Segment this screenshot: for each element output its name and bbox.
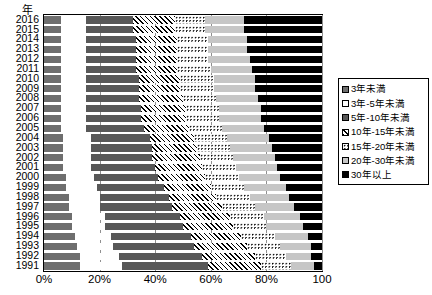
bar-segment bbox=[244, 184, 286, 191]
bar-row bbox=[44, 66, 322, 73]
bar-segment bbox=[261, 262, 292, 269]
bar-segment bbox=[44, 213, 72, 220]
bar-segment bbox=[275, 233, 308, 240]
bar-segment bbox=[250, 56, 322, 63]
bar-segment bbox=[86, 56, 136, 63]
bar-row bbox=[44, 95, 322, 102]
bar-segment bbox=[164, 184, 211, 191]
bar-segment bbox=[183, 95, 216, 102]
bar-segment bbox=[61, 85, 86, 92]
bar-segment bbox=[61, 16, 86, 23]
bar-segment bbox=[214, 75, 256, 82]
bar-segment bbox=[69, 194, 100, 201]
bar-segment bbox=[308, 233, 322, 240]
x-axis-tick-label: 0% bbox=[36, 273, 53, 285]
bar-segment bbox=[86, 46, 136, 53]
legend-item[interactable]: 3年-5年未満 bbox=[342, 96, 426, 110]
bar-segment bbox=[141, 105, 185, 112]
bar-segment bbox=[183, 223, 233, 230]
bar-segment bbox=[191, 233, 241, 240]
legend-label: 5年-10年未満 bbox=[351, 113, 410, 123]
legend-item[interactable]: 30年以上 bbox=[342, 168, 426, 182]
bar-segment bbox=[44, 85, 61, 92]
legend-item[interactable]: 10年-15年未満 bbox=[342, 125, 426, 139]
bar-segment bbox=[255, 203, 294, 210]
bar-segment bbox=[44, 56, 61, 63]
bar-segment bbox=[205, 16, 244, 23]
legend-item[interactable]: 20年-30年未満 bbox=[342, 153, 426, 167]
bar-segment bbox=[141, 115, 185, 122]
bar-segment bbox=[44, 125, 61, 132]
bar-row bbox=[44, 164, 322, 171]
bar-segment bbox=[86, 85, 139, 92]
legend-item[interactable]: 15年-20年未満 bbox=[342, 139, 426, 153]
bar-segment bbox=[80, 253, 119, 260]
bar-segment bbox=[86, 36, 136, 43]
bar-segment bbox=[180, 75, 213, 82]
bar-segment bbox=[61, 26, 86, 33]
bar-segment bbox=[44, 253, 80, 260]
bar-segment bbox=[72, 213, 105, 220]
bar-segment bbox=[61, 36, 86, 43]
bar-segment bbox=[69, 203, 100, 210]
bar-segment bbox=[91, 134, 149, 141]
x-axis-tick-label: 100 bbox=[312, 273, 331, 285]
bar-segment bbox=[44, 243, 77, 250]
bar-segment bbox=[63, 134, 91, 141]
bar-segment bbox=[63, 164, 91, 171]
bar-segment bbox=[152, 154, 199, 161]
bar-segment bbox=[44, 174, 66, 181]
bar-segment bbox=[177, 56, 208, 63]
bar-segment bbox=[258, 95, 322, 102]
legend-item[interactable]: 3年未満 bbox=[342, 82, 426, 96]
bar-segment bbox=[208, 36, 247, 43]
bar-segment bbox=[44, 105, 61, 112]
bar-segment bbox=[44, 154, 63, 161]
y-axis-tick-label: 1991 bbox=[16, 260, 39, 271]
bar-segment bbox=[244, 26, 322, 33]
bar-segment bbox=[61, 115, 86, 122]
bar-segment bbox=[113, 243, 194, 250]
bar-segment bbox=[44, 203, 69, 210]
bar-segment bbox=[186, 115, 219, 122]
bar-segment bbox=[266, 223, 302, 230]
legend-swatch-icon bbox=[342, 100, 349, 107]
bar-segment bbox=[66, 174, 94, 181]
bar-segment bbox=[61, 66, 86, 73]
stacked-bars bbox=[44, 15, 322, 271]
bar-segment bbox=[289, 194, 322, 201]
bar-segment bbox=[255, 75, 322, 82]
bar-segment bbox=[44, 262, 80, 269]
bar-segment bbox=[303, 223, 322, 230]
bar-segment bbox=[277, 164, 321, 171]
legend-item[interactable]: 5年-10年未満 bbox=[342, 111, 426, 125]
legend-swatch-icon bbox=[342, 86, 349, 93]
bar-segment bbox=[111, 233, 192, 240]
bar-row bbox=[44, 253, 322, 260]
x-axis-tick-label: 20% bbox=[88, 273, 111, 285]
bar-segment bbox=[247, 46, 322, 53]
bar-segment bbox=[194, 134, 227, 141]
bar-segment bbox=[291, 262, 313, 269]
bar-segment bbox=[86, 125, 144, 132]
bar-segment bbox=[158, 174, 205, 181]
bar-segment bbox=[44, 95, 61, 102]
bar-segment bbox=[86, 115, 142, 122]
bar-segment bbox=[44, 233, 75, 240]
bar-segment bbox=[100, 194, 170, 201]
bar-segment bbox=[86, 95, 139, 102]
bar-segment bbox=[264, 213, 300, 220]
bar-row bbox=[44, 154, 322, 161]
bar-segment bbox=[177, 66, 210, 73]
bar-segment bbox=[208, 56, 250, 63]
bar-row bbox=[44, 194, 322, 201]
bar-segment bbox=[105, 223, 183, 230]
bar-segment bbox=[280, 243, 311, 250]
bar-segment bbox=[63, 144, 91, 151]
bar-segment bbox=[311, 243, 322, 250]
bar-segment bbox=[44, 134, 63, 141]
bar-segment bbox=[286, 253, 311, 260]
bar-segment bbox=[119, 253, 202, 260]
bar-segment bbox=[244, 16, 322, 23]
bar-row bbox=[44, 223, 322, 230]
